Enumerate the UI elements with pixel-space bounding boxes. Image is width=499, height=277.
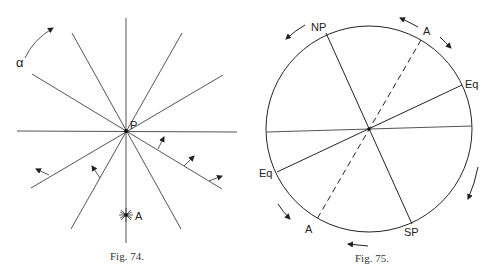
diagram-canvas: α P A Fig. 74. NP SP Eq Eq A A [0,0,499,277]
equator-right-label: Eq [465,78,478,90]
south-pole-label: SP [404,226,419,238]
center-point [367,127,371,131]
axis-top-label: A [423,25,431,37]
normal-arrows [36,137,222,181]
figure-75: NP SP Eq Eq A A Fig. 75. [259,18,478,264]
alpha-label: α [16,55,24,70]
equator-left-label: Eq [259,167,272,179]
north-pole-label: NP [311,21,326,33]
figure-74-caption: Fig. 74. [110,250,144,262]
point-p-label: P [130,119,137,131]
axis-bottom-label: A [305,223,313,235]
rotation-arrow-icon [25,28,53,58]
point-p [124,129,128,133]
figure-75-caption: Fig. 75. [355,252,389,264]
figure-74: α P A Fig. 74. [16,18,237,262]
point-a-label: A [135,210,143,222]
point-a [124,213,128,217]
